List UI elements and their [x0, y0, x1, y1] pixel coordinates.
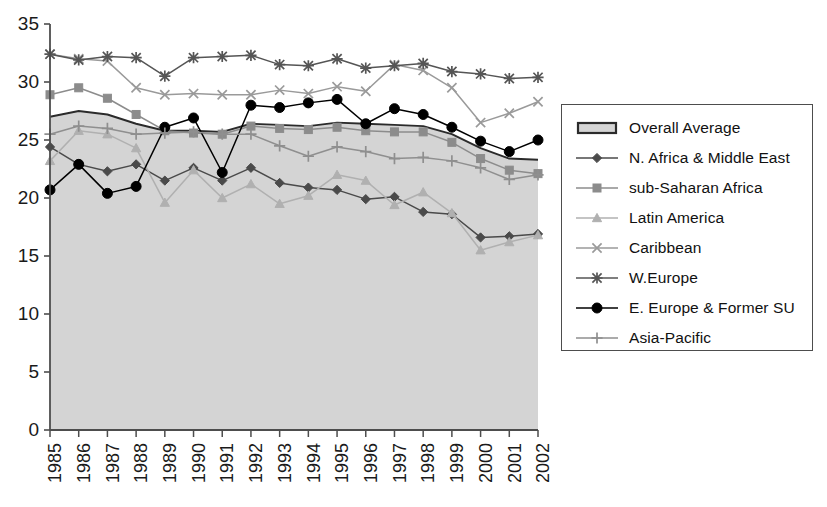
legend-item-overall-average[interactable]: Overall Average — [562, 113, 812, 143]
x-tick-label: 1996 — [361, 443, 381, 483]
legend-item-label: Caribbean — [629, 239, 701, 257]
legend-item-asia-pacific[interactable]: Asia-Pacific — [562, 323, 812, 353]
circle-marker-icon — [574, 299, 620, 317]
x-marker-icon — [574, 239, 620, 257]
x-tick-label: 1991 — [217, 443, 237, 483]
x-tick-label: 2001 — [505, 443, 525, 483]
x-tick-label: 1988 — [131, 443, 151, 483]
x-tick-label: 1987 — [103, 443, 123, 483]
y-tick-label: 30 — [18, 71, 39, 92]
y-tick-label: 15 — [18, 245, 39, 266]
x-tick-label: 1999 — [447, 443, 467, 483]
x-tick-label: 1992 — [246, 443, 266, 483]
legend-item-label: E. Europe & Former SU — [629, 299, 795, 317]
x-tick-label: 1985 — [45, 443, 65, 483]
legend-item-label: sub-Saharan Africa — [629, 179, 763, 197]
square-marker-icon — [574, 179, 620, 197]
chart-plot-area: 0510152025303519851986198719881989199019… — [0, 0, 560, 507]
y-tick-label: 10 — [18, 303, 39, 324]
y-tick-label: 0 — [28, 419, 39, 440]
x-tick-label: 1998 — [418, 443, 438, 483]
y-tick-label: 25 — [18, 129, 39, 150]
x-tick-label: 1993 — [275, 443, 295, 483]
chart-screenshot: 0510152025303519851986198719881989199019… — [0, 0, 827, 507]
x-tick-label: 1990 — [189, 443, 209, 483]
plus-marker-icon — [574, 329, 620, 347]
y-tick-label: 5 — [28, 361, 39, 382]
x-tick-label: 1997 — [390, 443, 410, 483]
series-w-europe — [44, 49, 543, 85]
x-tick-label: 1986 — [74, 443, 94, 483]
x-tick-label: 2000 — [476, 443, 496, 483]
legend-item-caribbean[interactable]: Caribbean — [562, 233, 812, 263]
asterisk-marker-icon — [574, 269, 620, 287]
legend-item-sub-saharan-africa[interactable]: sub-Saharan Africa — [562, 173, 812, 203]
line-area-chart: 0510152025303519851986198719881989199019… — [0, 0, 560, 507]
legend-item-n-africa-middle-east[interactable]: N. Africa & Middle East — [562, 143, 812, 173]
legend-item-label: W.Europe — [629, 269, 698, 287]
triangle-marker-icon — [574, 209, 620, 227]
x-tick-label: 2002 — [533, 443, 553, 483]
legend-item-w-europe[interactable]: W.Europe — [562, 263, 812, 293]
series-caribbean — [45, 50, 542, 128]
legend-item-label: Overall Average — [629, 119, 741, 137]
legend-item-label: Latin America — [629, 209, 724, 227]
diamond-marker-icon — [574, 149, 620, 167]
area-swatch-icon — [574, 119, 620, 137]
legend-item-e-europe-former-su[interactable]: E. Europe & Former SU — [562, 293, 812, 323]
legend-item-label: Asia-Pacific — [629, 329, 711, 347]
overall-average-area — [50, 111, 538, 430]
y-tick-label: 20 — [18, 187, 39, 208]
legend-item-label: N. Africa & Middle East — [629, 149, 790, 167]
legend-item-latin-america[interactable]: Latin America — [562, 203, 812, 233]
figure-caption-strip — [22, 484, 542, 504]
x-tick-label: 1995 — [332, 443, 352, 483]
y-tick-label: 35 — [18, 13, 39, 34]
x-tick-label: 1989 — [160, 443, 180, 483]
chart-legend: Overall AverageN. Africa & Middle Eastsu… — [561, 104, 813, 351]
x-tick-label: 1994 — [304, 443, 324, 483]
